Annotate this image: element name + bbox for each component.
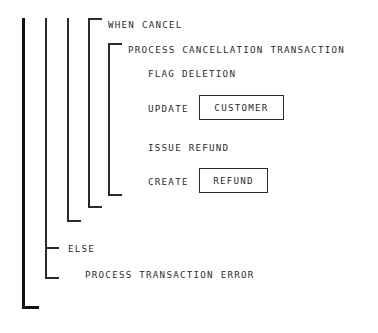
- statement-issue-refund: ISSUE REFUND: [148, 142, 229, 153]
- bracket-when-group-foot: [67, 220, 81, 222]
- bracket-process-cancel-foot: [108, 194, 122, 196]
- bracket-else-block-spine: [45, 18, 47, 279]
- tick-else-connector: [45, 247, 59, 249]
- bracket-else-block-foot: [45, 277, 59, 279]
- action-diagram-canvas: WHEN CANCEL PROCESS CANCELLATION TRANSAC…: [0, 0, 378, 333]
- entity-box-customer[interactable]: CUSTOMER: [199, 95, 284, 120]
- statement-update: UPDATE: [148, 103, 189, 114]
- statement-flag-deletion: FLAG DELETION: [148, 68, 236, 79]
- entity-box-refund[interactable]: REFUND: [199, 168, 268, 193]
- bracket-outer-foot: [22, 306, 39, 309]
- entity-box-customer-label: CUSTOMER: [214, 102, 268, 113]
- statement-process-transaction-error: PROCESS TRANSACTION ERROR: [85, 269, 255, 280]
- bracket-when-group-spine: [67, 18, 69, 222]
- bracket-process-cancel-spine: [108, 43, 110, 196]
- statement-else: ELSE: [68, 243, 95, 254]
- bracket-process-cancel-head: [108, 43, 122, 45]
- bracket-when-cancel-head: [88, 18, 102, 20]
- bracket-outer-spine: [22, 18, 25, 309]
- statement-process-cancellation-transaction: PROCESS CANCELLATION TRANSACTION: [128, 44, 345, 55]
- statement-create: CREATE: [148, 176, 189, 187]
- bracket-when-cancel-spine: [88, 18, 90, 208]
- entity-box-refund-label: REFUND: [213, 175, 254, 186]
- bracket-when-cancel-foot: [88, 206, 102, 208]
- statement-when-cancel: WHEN CANCEL: [108, 19, 183, 30]
